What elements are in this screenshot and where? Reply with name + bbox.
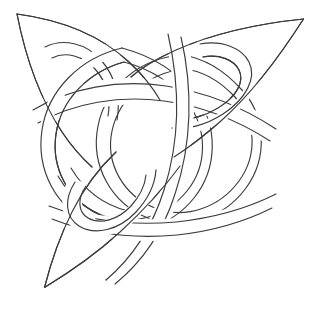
artboard xyxy=(0,0,312,311)
celtic-knot-drawing xyxy=(0,0,312,311)
